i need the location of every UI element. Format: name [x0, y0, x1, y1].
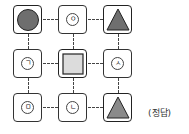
triangle-shape-icon: [104, 6, 133, 35]
connector-h-r1-b: [88, 63, 103, 64]
cell-label-ieung: ㅇ: [58, 5, 87, 34]
cell-square: [58, 49, 87, 78]
cell-label-mieum: ㅁ: [13, 93, 42, 122]
connector-v-c1-b: [73, 78, 74, 93]
answer-caption: (정답): [148, 106, 171, 119]
connector-v-c0-a: [28, 34, 29, 49]
connector-v-c2-a: [118, 34, 119, 49]
connector-v-c0-b: [28, 78, 29, 93]
circled-letter: ㅇ: [66, 13, 79, 26]
circled-letter: ㄱ: [21, 57, 34, 70]
circled-letter: ㄴ: [66, 101, 79, 114]
connector-v-c1-a: [73, 34, 74, 49]
connector-h-r0-a: [43, 19, 58, 20]
connector-v-c2-b: [118, 78, 119, 93]
connector-h-r1-a: [43, 63, 58, 64]
circle-shape-icon: [14, 6, 43, 35]
cell-label-nieun: ㄴ: [58, 93, 87, 122]
connector-h-r2-a: [43, 107, 58, 108]
circled-letter: ㅁ: [21, 101, 34, 114]
square-shape-icon: [59, 50, 88, 79]
triangle-shape-icon: [104, 94, 133, 123]
connector-h-r0-b: [88, 19, 103, 20]
cell-triangle-bottom: [103, 93, 132, 122]
circled-letter: ㅅ: [111, 57, 124, 70]
cell-triangle-top: [103, 5, 132, 34]
cell-label-giyeok: ㄱ: [13, 49, 42, 78]
cell-circle: [13, 5, 42, 34]
cell-label-siot: ㅅ: [103, 49, 132, 78]
connector-h-r2-b: [88, 107, 103, 108]
